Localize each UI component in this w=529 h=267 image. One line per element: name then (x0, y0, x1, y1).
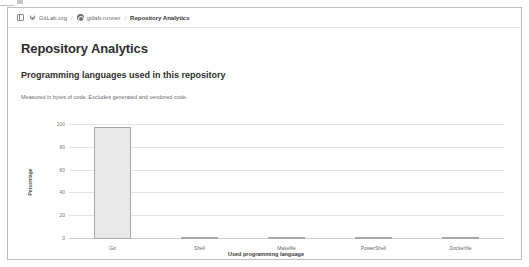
breadcrumb-org-link[interactable]: GitLab.org (39, 15, 67, 21)
languages-bar-chart: Percentage 020406080100 GoShellMakefileP… (21, 111, 511, 259)
y-axis-tick-label: 100 (57, 121, 65, 127)
breadcrumb-separator-1: / (71, 15, 73, 21)
content-card: GitLab.org / gitlab-runner / Repository … (7, 7, 522, 260)
top-hairline-decoration (0, 5, 14, 6)
y-axis-tick-label: 0 (62, 235, 65, 241)
breadcrumb-current-page: Repository Analytics (130, 15, 189, 21)
y-axis-label: Percentage (27, 169, 33, 196)
chart-bar-slot: Shell (156, 125, 243, 239)
y-axis-tick-label: 40 (59, 189, 65, 195)
project-avatar-icon (77, 14, 84, 21)
y-axis-tick-label: 60 (59, 167, 65, 173)
chart-bar-slot: Makefile (243, 125, 330, 239)
window-top-sliver (0, 0, 529, 7)
section-title: Programming languages used in this repos… (21, 70, 226, 80)
chart-bar[interactable] (442, 237, 479, 239)
x-axis-label: Used programming language (21, 251, 511, 257)
chart-bar[interactable] (355, 237, 392, 239)
chart-bar[interactable] (268, 237, 305, 239)
gitlab-tanuki-icon (29, 14, 36, 21)
chart-bar[interactable] (181, 237, 218, 239)
sidebar-toggle-icon[interactable] (17, 14, 24, 21)
y-axis-tick-label: 80 (59, 144, 65, 150)
chart-bar-slot: PowerShell (330, 125, 417, 239)
top-nub-decoration (17, 0, 23, 4)
chart-bar[interactable] (94, 127, 131, 239)
chart-bars: GoShellMakefilePowerShellDockerfile (69, 125, 504, 239)
section-description: Measured in bytes of code. Excludes gene… (21, 94, 187, 100)
breadcrumb-project-link[interactable]: gitlab-runner (87, 15, 121, 21)
chart-bar-slot: Dockerfile (417, 125, 504, 239)
y-axis-tick-label: 20 (59, 212, 65, 218)
chart-bar-slot: Go (69, 125, 156, 239)
breadcrumb: GitLab.org / gitlab-runner / Repository … (8, 8, 521, 28)
breadcrumb-separator-2: / (124, 15, 126, 21)
page-title: Repository Analytics (21, 41, 148, 56)
chart-plot-area: 020406080100 GoShellMakefilePowerShellDo… (69, 125, 504, 239)
repository-analytics-page: GitLab.org / gitlab-runner / Repository … (0, 0, 529, 267)
